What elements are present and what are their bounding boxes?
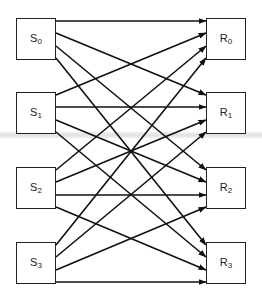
sender-s0: S0 [16,18,56,60]
receiver-r0: R0 [206,18,246,60]
receiver-label: R1 [220,106,232,120]
sender-label: S3 [30,256,42,270]
sender-s1: S1 [16,92,56,134]
sender-label: S1 [30,106,42,120]
receiver-r1: R1 [206,92,246,134]
receiver-label: R2 [220,181,232,195]
receiver-label: R0 [220,32,232,46]
sender-s3: S3 [16,242,56,284]
receiver-r2: R2 [206,167,246,209]
sender-label: S2 [30,181,42,195]
receiver-r3: R3 [206,242,246,284]
sender-s2: S2 [16,167,56,209]
receiver-label: R3 [220,256,232,270]
sender-label: S0 [30,32,42,46]
